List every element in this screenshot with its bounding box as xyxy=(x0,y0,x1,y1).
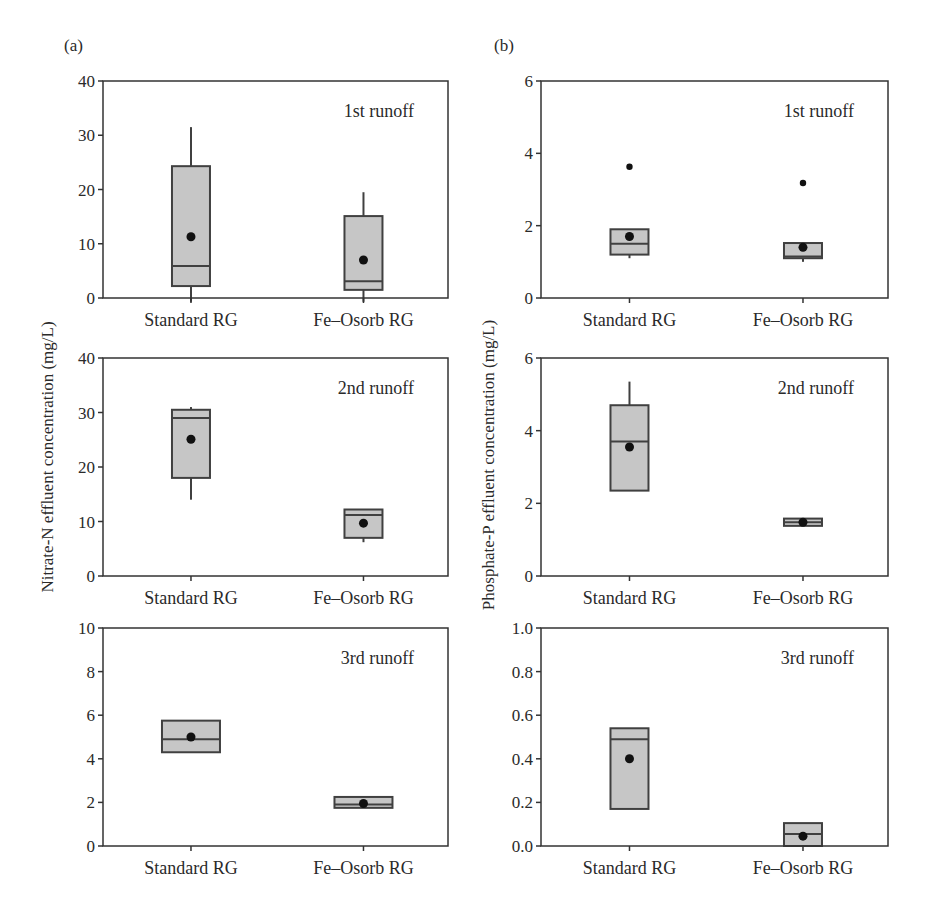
panel-title: 3rd runoff xyxy=(341,648,414,668)
y-tick-label: 10 xyxy=(78,513,95,532)
box-fe-osorb-rg xyxy=(784,518,822,527)
x-category-label: Fe–Osorb RG xyxy=(313,858,414,878)
y-tick-label: 0.4 xyxy=(512,750,534,769)
mean-marker xyxy=(359,256,368,265)
y-tick-label: 40 xyxy=(78,349,95,368)
y-tick-label: 0.8 xyxy=(512,663,533,682)
y-tick-label: 0 xyxy=(87,567,96,586)
box-fe-osorb-rg xyxy=(344,510,382,543)
panel-title: 3rd runoff xyxy=(781,648,854,668)
mean-marker xyxy=(359,799,368,808)
y-tick-label: 10 xyxy=(78,235,95,254)
mean-marker xyxy=(798,518,807,527)
y-tick-label: 10 xyxy=(78,619,95,638)
x-category-label: Fe–Osorb RG xyxy=(753,310,854,330)
box-standard-rg xyxy=(610,728,648,809)
x-category-label: Fe–Osorb RG xyxy=(313,588,414,608)
x-category-label: Fe–Osorb RG xyxy=(753,588,854,608)
outlier-marker xyxy=(626,164,632,170)
box-standard-rg xyxy=(162,721,220,753)
mean-marker xyxy=(798,832,807,841)
y-tick-label: 8 xyxy=(87,663,96,682)
y-tick-label: 2 xyxy=(87,793,96,812)
mean-marker xyxy=(625,232,634,241)
panel-a-3: 0246810Standard RGFe–Osorb RG3rd runoff xyxy=(78,619,448,878)
y-tick-label: 6 xyxy=(87,706,96,725)
y-tick-label: 20 xyxy=(78,181,95,200)
y-tick-label: 0 xyxy=(87,837,96,856)
y-tick-label: 0 xyxy=(525,289,534,308)
y-tick-label: 0.0 xyxy=(512,837,533,856)
x-category-label: Standard RG xyxy=(144,588,238,608)
panel-title: 2nd runoff xyxy=(338,378,414,398)
y-tick-label: 4 xyxy=(525,144,534,163)
y-tick-label: 4 xyxy=(87,750,96,769)
mean-marker xyxy=(625,754,634,763)
panel-title: 1st runoff xyxy=(344,101,414,121)
box-fe-osorb-rg xyxy=(334,797,392,808)
panel-a-1: 010203040Standard RGFe–Osorb RG1st runof… xyxy=(78,72,448,330)
mean-marker xyxy=(186,733,195,742)
mean-marker xyxy=(186,232,195,241)
y-tick-label: 0 xyxy=(525,567,534,586)
x-category-label: Fe–Osorb RG xyxy=(313,310,414,330)
box-fe-osorb-rg xyxy=(344,192,382,302)
box-fe-osorb-rg xyxy=(784,180,822,262)
x-category-label: Standard RG xyxy=(144,858,238,878)
y-tick-label: 0.2 xyxy=(512,793,533,812)
y-tick-label: 4 xyxy=(525,422,534,441)
y-tick-label: 30 xyxy=(78,126,95,145)
box-plots: 010203040Standard RGFe–Osorb RG1st runof… xyxy=(0,0,926,916)
y-tick-label: 6 xyxy=(525,349,534,368)
y-tick-label: 0.6 xyxy=(512,706,533,725)
box-standard-rg xyxy=(610,382,648,491)
box-standard-rg xyxy=(610,164,648,259)
panel-b-1: 0246Standard RGFe–Osorb RG1st runoff xyxy=(525,72,889,330)
y-tick-label: 6 xyxy=(525,72,534,91)
y-tick-label: 1.0 xyxy=(512,619,533,638)
mean-marker xyxy=(186,435,195,444)
panel-title: 2nd runoff xyxy=(778,378,854,398)
x-category-label: Fe–Osorb RG xyxy=(753,858,854,878)
box-fe-osorb-rg xyxy=(784,823,822,846)
mean-marker xyxy=(798,243,807,252)
y-tick-label: 40 xyxy=(78,72,95,91)
panel-a-2: 010203040Standard RGFe–Osorb RG2nd runof… xyxy=(78,349,448,608)
box-standard-rg xyxy=(172,407,210,500)
mean-marker xyxy=(625,443,634,452)
x-category-label: Standard RG xyxy=(144,310,238,330)
y-tick-label: 30 xyxy=(78,404,95,423)
x-category-label: Standard RG xyxy=(583,310,677,330)
panel-b-3: 0.00.20.40.60.81.0Standard RGFe–Osorb RG… xyxy=(512,619,888,878)
outlier-marker xyxy=(800,180,806,186)
x-category-label: Standard RG xyxy=(583,858,677,878)
x-category-label: Standard RG xyxy=(583,588,677,608)
mean-marker xyxy=(359,519,368,528)
y-tick-label: 20 xyxy=(78,458,95,477)
y-tick-label: 2 xyxy=(525,494,534,513)
figure: (a) (b) Nitrate-N effluent concentration… xyxy=(0,0,926,916)
panel-title: 1st runoff xyxy=(784,101,854,121)
y-tick-label: 2 xyxy=(525,217,534,236)
box-standard-rg xyxy=(172,127,210,302)
y-tick-label: 0 xyxy=(87,289,96,308)
panel-b-2: 0246Standard RGFe–Osorb RG2nd runoff xyxy=(525,349,889,608)
